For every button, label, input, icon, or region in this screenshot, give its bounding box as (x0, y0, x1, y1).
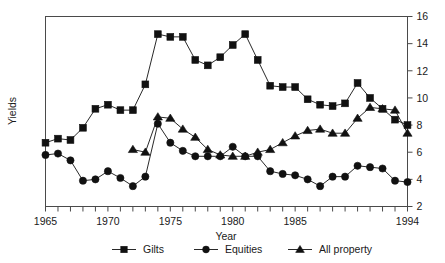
plot-area-frame (46, 17, 408, 207)
y-tick-label-2: 2 (417, 200, 423, 212)
data-point-1992 (379, 165, 386, 172)
x-tick-label-1975: 1975 (159, 215, 183, 227)
data-point-1973 (142, 81, 149, 88)
data-point-1980 (229, 143, 236, 150)
data-point-1975 (167, 33, 174, 40)
data-point-1985 (292, 172, 299, 179)
data-point-1975 (167, 139, 174, 146)
data-point-1970 (105, 101, 112, 108)
y-tick-label-8: 8 (417, 119, 423, 131)
legend-label: All property (319, 243, 373, 255)
data-point-1965 (42, 151, 49, 158)
data-point-1965 (42, 139, 49, 146)
x-tick-label-1985: 1985 (283, 215, 307, 227)
legend-marker-square (121, 246, 127, 252)
data-point-1980 (229, 42, 236, 49)
y-tick-label-4: 4 (417, 173, 423, 185)
yields-line-chart: 246810121416 196519701975198019851994 Yi… (0, 0, 445, 263)
data-point-1987 (317, 101, 324, 108)
data-point-1984 (279, 170, 286, 177)
data-point-1977 (192, 153, 199, 160)
data-point-1977 (192, 57, 199, 64)
data-point-1978 (204, 62, 211, 69)
data-point-1988 (329, 103, 336, 110)
data-point-1986 (304, 176, 311, 183)
y-tick-label-12: 12 (417, 65, 429, 77)
x-axis-ticks (46, 207, 408, 212)
x-tick-label-1994: 1994 (396, 215, 420, 227)
data-point-1989 (342, 100, 349, 107)
x-axis-tick-labels: 196519701975198019851994 (34, 215, 420, 227)
data-point-1976 (179, 33, 186, 40)
y-tick-label-6: 6 (417, 146, 423, 158)
data-point-1974 (154, 31, 161, 38)
x-tick-label-1980: 1980 (221, 215, 245, 227)
y-axis-tick-labels: 246810121416 (417, 10, 429, 212)
data-point-1984 (279, 84, 286, 91)
legend-label: Equities (225, 243, 262, 255)
data-point-1968 (80, 124, 87, 131)
data-point-1990 (354, 80, 361, 87)
chart-legend: GiltsEquitiesAll property (112, 243, 373, 255)
data-point-1990 (354, 162, 361, 169)
y-axis-title: Yields (6, 97, 18, 125)
data-point-1987 (317, 183, 324, 190)
legend-label: Gilts (143, 243, 164, 255)
data-point-1968 (79, 177, 86, 184)
legend-marker-circle (203, 246, 210, 253)
data-point-1986 (304, 96, 311, 103)
data-point-1993 (392, 116, 399, 123)
data-point-1979 (217, 54, 224, 61)
data-point-1983 (267, 168, 274, 175)
chart-container: 246810121416 196519701975198019851994 Yi… (0, 0, 445, 263)
y-axis-ticks (408, 17, 413, 207)
y-tick-label-10: 10 (417, 92, 429, 104)
data-point-1973 (142, 173, 149, 180)
data-point-1982 (254, 57, 261, 64)
data-point-1972 (129, 183, 136, 190)
data-point-1983 (267, 82, 274, 89)
data-point-1985 (292, 84, 299, 91)
legend-marker-triangle (296, 246, 305, 253)
legend-item-all-property[interactable]: All property (288, 243, 373, 255)
data-point-1991 (367, 95, 374, 102)
data-point-1967 (67, 157, 74, 164)
data-point-1966 (54, 150, 61, 157)
data-point-1969 (92, 105, 99, 112)
data-point-1994 (404, 122, 411, 129)
data-point-1967 (67, 137, 74, 144)
data-point-1972 (129, 107, 136, 114)
data-point-1993 (391, 177, 398, 184)
data-point-1969 (92, 176, 99, 183)
y-tick-label-16: 16 (417, 10, 429, 22)
data-point-1991 (366, 164, 373, 171)
x-tick-label-1965: 1965 (34, 215, 58, 227)
y-tick-label-14: 14 (417, 37, 429, 49)
data-point-1971 (117, 107, 124, 114)
data-point-1989 (341, 173, 348, 180)
data-point-1971 (117, 174, 124, 181)
x-tick-label-1970: 1970 (96, 215, 120, 227)
data-point-1966 (55, 135, 62, 142)
x-axis-title: Year (215, 230, 237, 242)
data-point-1994 (404, 178, 411, 185)
data-point-1978 (204, 153, 211, 160)
data-point-1970 (104, 168, 111, 175)
data-point-1981 (242, 31, 249, 38)
legend-item-equities[interactable]: Equities (194, 243, 262, 255)
legend-item-gilts[interactable]: Gilts (112, 243, 164, 255)
data-point-1988 (329, 173, 336, 180)
data-point-1976 (179, 147, 186, 154)
